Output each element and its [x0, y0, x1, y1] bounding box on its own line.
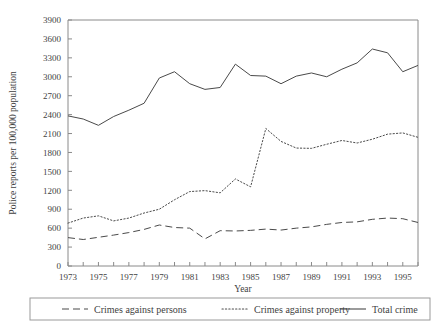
x-tick-label: 1981 — [181, 272, 199, 282]
crime-trend-chart: 0300600900120015001800210024002700300033… — [0, 0, 440, 328]
x-tick-label: 1995 — [394, 272, 413, 282]
y-tick-label: 300 — [48, 242, 62, 252]
x-tick-label: 1991 — [333, 272, 351, 282]
y-tick-label: 1200 — [43, 186, 62, 196]
series-line-1 — [68, 128, 418, 223]
y-tick-label: 1800 — [43, 148, 62, 158]
y-tick-label: 900 — [48, 204, 62, 214]
series-line-0 — [68, 218, 418, 239]
y-tick-label: 600 — [48, 223, 62, 233]
x-tick-label: 1975 — [89, 272, 108, 282]
chart-legend: Crimes against personsCrimes against pro… — [30, 298, 430, 320]
y-tick-label: 1500 — [43, 167, 62, 177]
x-tick-label: 1983 — [211, 272, 230, 282]
x-axis-title: Year — [234, 284, 252, 294]
y-tick-label: 3300 — [43, 53, 62, 63]
y-tick-label: 3600 — [43, 34, 62, 44]
y-tick-label: 0 — [57, 261, 62, 271]
x-tick-label: 1993 — [363, 272, 382, 282]
x-tick-label: 1987 — [272, 272, 291, 282]
y-tick-label: 2400 — [43, 110, 62, 120]
y-axis-title: Police reports per 100,000 population — [8, 71, 18, 215]
legend-label-0: Crimes against persons — [94, 304, 187, 315]
legend-label-2: Total crime — [372, 304, 418, 315]
data-series-group — [68, 49, 418, 239]
y-tick-label: 2100 — [43, 129, 62, 139]
series-line-2 — [68, 49, 418, 125]
x-tick-label: 1977 — [120, 272, 139, 282]
y-tick-label: 3900 — [43, 15, 62, 25]
x-axis-ticks: 1973197519771979198119831985198719891991… — [59, 262, 418, 282]
x-tick-label: 1979 — [150, 272, 169, 282]
x-tick-label: 1989 — [302, 272, 321, 282]
x-tick-label: 1973 — [59, 272, 78, 282]
plot-frame — [68, 20, 418, 266]
legend-label-1: Crimes against property — [254, 304, 350, 315]
y-tick-label: 2700 — [43, 91, 62, 101]
x-tick-label: 1985 — [242, 272, 261, 282]
y-tick-label: 3000 — [43, 72, 62, 82]
line-chart-figure: 0300600900120015001800210024002700300033… — [0, 0, 440, 328]
